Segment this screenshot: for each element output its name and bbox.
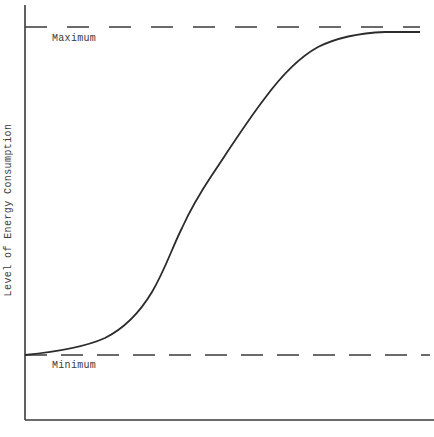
maximum-label: Maximum	[52, 33, 96, 44]
s-curve-figure: Maximum Minimum Level of Energy Consumpt…	[0, 0, 434, 437]
energy-consumption-curve	[25, 32, 420, 355]
plot-area	[0, 0, 434, 437]
minimum-label: Minimum	[52, 360, 96, 371]
y-axis-label: Level of Energy Consumption	[3, 124, 14, 297]
